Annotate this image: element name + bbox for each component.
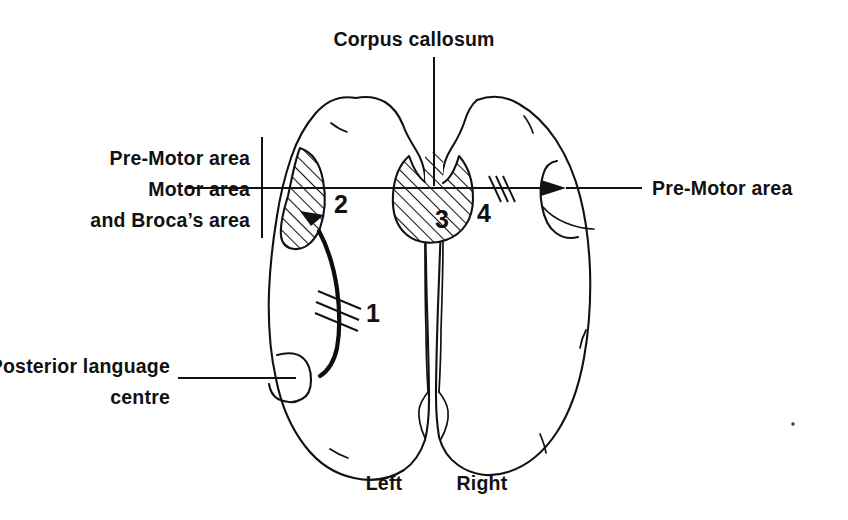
marker-4-number: 4	[477, 199, 491, 227]
page-speck	[791, 422, 794, 425]
left-bracket-label-line3: and Broca’s area	[90, 209, 250, 231]
hemisphere-right-label: Right	[457, 472, 508, 494]
left-motor-broca-region	[265, 135, 345, 265]
left-hemisphere-outline	[269, 97, 425, 479]
occipital-notch-right	[439, 392, 448, 439]
gyrus-tick-left-occipital	[330, 449, 348, 458]
posterior-language-label-line2: centre	[110, 386, 170, 408]
marker-3-number: 3	[435, 205, 449, 233]
right-hemisphere-outline	[439, 97, 590, 475]
left-bracket-label-line1: Pre-Motor area	[110, 147, 250, 169]
brain-diagram-figure: Corpus callosum Pre-Motor area Motor are…	[0, 0, 848, 520]
diagram-canvas: Corpus callosum Pre-Motor area Motor are…	[0, 0, 848, 520]
marker-1-number: 1	[366, 299, 380, 327]
gyrus-tick-right-frontal	[524, 116, 533, 133]
gyrus-tick-left-frontal	[331, 123, 347, 132]
transfer-pathway-arrowhead	[541, 180, 566, 196]
corpus-callosum-label: Corpus callosum	[333, 28, 494, 50]
hemisphere-left-label: Left	[366, 472, 403, 494]
left-frontal-medial-curve	[356, 97, 425, 176]
right-premotor-label: Pre-Motor area	[652, 177, 792, 199]
marker-2-number: 2	[334, 190, 348, 218]
left-bracket-label-line2: Motor area	[148, 178, 250, 200]
posterior-language-label-line1: Posterior language	[0, 355, 170, 377]
